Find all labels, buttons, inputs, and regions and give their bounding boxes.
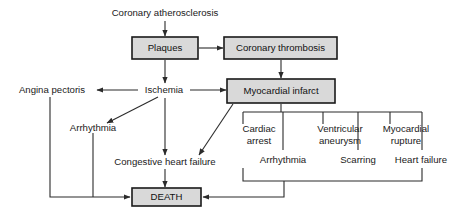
node-death: DEATH	[132, 188, 201, 206]
node-ventricular-aneurysm-line-1: Ventricular	[317, 123, 363, 134]
node-coronary-atherosclerosis: Coronary atherosclerosis	[112, 7, 219, 18]
node-congestive-heart-failure: Congestive heart failure	[114, 156, 215, 167]
plaques-label: Plaques	[148, 42, 183, 53]
node-myocardial-infarct: Myocardial infarct	[227, 79, 335, 103]
death-label: DEATH	[151, 191, 183, 202]
complication-collection-bracket	[243, 168, 422, 181]
coronary-thrombosis-label: Coronary thrombosis	[236, 42, 325, 53]
coronary-atherosclerosis-flowchart: Coronary atherosclerosis Ischemia Angina…	[0, 0, 465, 215]
node-plaques: Plaques	[132, 37, 198, 59]
edge-infarct-to-congestive-heart-failure	[199, 104, 233, 155]
node-ischemia: Ischemia	[145, 84, 184, 95]
myocardial-infarct-label: Myocardial infarct	[243, 85, 319, 96]
edge-angina-to-death	[50, 97, 130, 197]
node-heart-failure: Heart failure	[395, 154, 447, 165]
node-myocardial-rupture-line-2: rupture	[391, 135, 421, 146]
node-arrhythmia-right: Arrhythmia	[260, 154, 307, 165]
node-myocardial-rupture-line-1: Myocardial	[383, 123, 429, 134]
node-ventricular-aneurysm-line-2: aneurysm	[319, 135, 361, 146]
edge-ischemia-to-arrhythmia	[107, 97, 158, 123]
node-angina-pectoris: Angina pectoris	[19, 84, 85, 95]
node-cardiac-arrest-line-2: arrest	[247, 135, 272, 146]
node-scarring: Scarring	[340, 154, 376, 165]
node-cardiac-arrest-line-1: Cardiac	[242, 123, 275, 134]
edge-complications-to-death	[203, 181, 284, 197]
node-coronary-thrombosis: Coronary thrombosis	[224, 37, 337, 59]
node-arrhythmia-left: Arrhythmia	[70, 122, 117, 133]
